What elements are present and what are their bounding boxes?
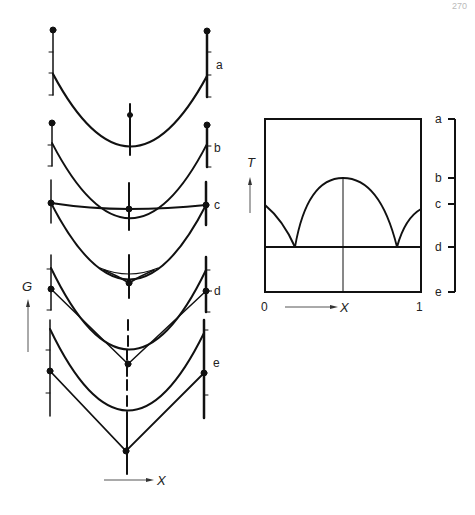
g-axis-label: G [22, 279, 32, 294]
temp-label-a: a [435, 112, 442, 126]
curve-c-lower [100, 255, 158, 298]
x-max-label: 1 [416, 300, 423, 314]
temp-label-e: e [435, 285, 442, 299]
t-axis-label: T [247, 155, 256, 170]
left-liquidus [265, 205, 295, 247]
g-x-curves [46, 27, 211, 474]
page-number: 270 [452, 1, 467, 11]
t-axis-arrow-icon [248, 177, 252, 213]
temp-label-d: d [435, 240, 442, 254]
x-min-label: 0 [261, 300, 268, 314]
temperature-scale [448, 119, 455, 292]
phase-diagram-figure: 270 [0, 0, 475, 515]
phase-diagram [265, 119, 421, 292]
temp-label-b: b [435, 171, 442, 185]
label-e-left: e [213, 356, 220, 370]
label-c-left: c [214, 198, 220, 212]
label-a-left: a [216, 58, 223, 72]
x-axis-arrow-icon [104, 478, 154, 482]
x-axis-arrow-icon-right [285, 305, 338, 309]
temp-label-c: c [435, 197, 441, 211]
label-b-left: b [214, 141, 221, 155]
right-liquidus [397, 209, 421, 247]
x-axis-label-left: X [156, 473, 167, 488]
central-liquidus [295, 178, 397, 247]
x-axis-label-right: X [339, 300, 350, 315]
g-axis-arrow-icon [26, 299, 30, 352]
label-d-left: d [214, 284, 221, 298]
